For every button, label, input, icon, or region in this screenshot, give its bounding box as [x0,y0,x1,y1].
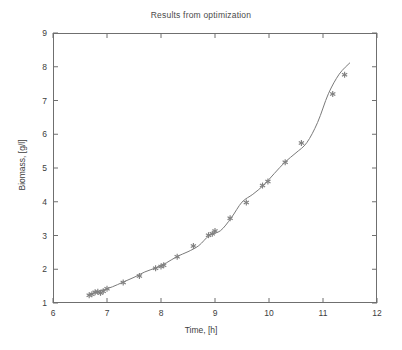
data-point [342,72,347,78]
y-tick-label: 8 [31,62,47,72]
x-tick-label: 10 [264,308,273,318]
model-curve [88,63,350,296]
y-tick-label: 6 [31,129,47,139]
x-tick-label: 11 [319,308,328,318]
data-point [299,140,304,146]
y-tick-label: 4 [31,197,47,207]
y-tick-label: 5 [31,163,47,173]
x-tick-label: 7 [105,308,110,318]
y-axis-label: Biomass, [g/l] [17,105,27,225]
x-tick-label: 12 [372,308,381,318]
x-axis-label: Time, [h] [0,325,402,335]
x-tick-label: 8 [159,308,164,318]
y-tick-label: 9 [31,28,47,38]
chart-page: Results from optimization Time, [h] Biom… [0,0,402,350]
x-tick-label: 9 [213,308,218,318]
y-tick-label: 7 [31,96,47,106]
y-tick-label: 3 [31,231,47,241]
data-point [175,254,180,260]
y-tick-label: 2 [31,264,47,274]
x-tick-label: 6 [51,308,56,318]
y-tick-label: 1 [31,298,47,308]
data-point [265,179,270,185]
plot-canvas [0,0,402,350]
data-point [330,91,335,97]
